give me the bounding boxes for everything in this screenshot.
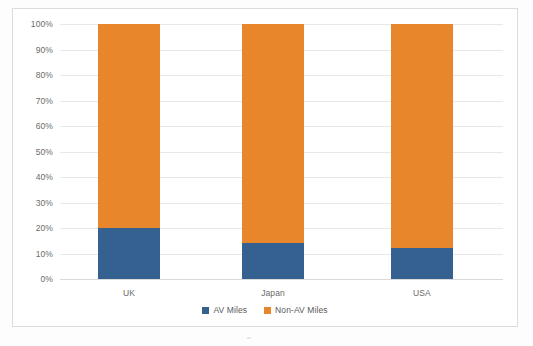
bar-segment-japan-av-miles[interactable] — [242, 243, 304, 279]
bar-segment-uk-av-miles[interactable] — [98, 228, 160, 279]
bar-segment-usa-non-av-miles[interactable] — [391, 24, 453, 248]
legend-item-non-av-miles[interactable]: Non-AV Miles — [264, 305, 328, 315]
ytick-label-30: 30% — [36, 198, 53, 208]
ytick-label-0: 0% — [41, 274, 54, 284]
ytick-label-90: 90% — [36, 45, 53, 55]
xtick-label-usa: USA — [413, 288, 431, 298]
ytick-label-10: 10% — [36, 249, 53, 259]
legend-label-av-miles: AV Miles — [213, 305, 247, 315]
bar-stack-japan[interactable] — [242, 24, 304, 279]
bar-group-japan[interactable]: Japan — [242, 24, 304, 279]
bar-segment-uk-non-av-miles[interactable] — [98, 24, 160, 228]
plot-area: 100% 90% 80% 70% 60% 50% 40% 30% 20% 10%… — [60, 24, 503, 279]
ytick-label-60: 60% — [36, 121, 53, 131]
gridline-0 — [60, 279, 503, 280]
bar-segment-usa-av-miles[interactable] — [391, 248, 453, 279]
scan-artifact — [247, 337, 251, 339]
ytick-label-100: 100% — [31, 19, 53, 29]
bar-group-uk[interactable]: UK — [98, 24, 160, 279]
ytick-label-50: 50% — [36, 147, 53, 157]
chart-legend: AV Miles Non-AV Miles — [13, 305, 517, 315]
legend-swatch-av-miles — [202, 307, 209, 314]
ytick-label-80: 80% — [36, 70, 53, 80]
bar-segment-japan-non-av-miles[interactable] — [242, 24, 304, 243]
bar-group-usa[interactable]: USA — [391, 24, 453, 279]
legend-swatch-non-av-miles — [264, 307, 271, 314]
chart-frame: 100% 90% 80% 70% 60% 50% 40% 30% 20% 10%… — [12, 8, 518, 327]
ytick-label-20: 20% — [36, 223, 53, 233]
xtick-label-uk: UK — [123, 288, 135, 298]
ytick-label-70: 70% — [36, 96, 53, 106]
bar-stack-uk[interactable] — [98, 24, 160, 279]
legend-item-av-miles[interactable]: AV Miles — [202, 305, 247, 315]
xtick-label-japan: Japan — [261, 288, 285, 298]
ytick-label-40: 40% — [36, 172, 53, 182]
legend-label-non-av-miles: Non-AV Miles — [275, 305, 328, 315]
bar-stack-usa[interactable] — [391, 24, 453, 279]
